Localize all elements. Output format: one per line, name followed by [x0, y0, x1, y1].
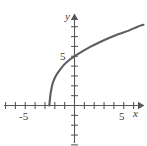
y-tick-label-5: 5 — [60, 50, 66, 62]
y-axis-group — [71, 14, 78, 145]
coordinate-plane: y x -5 5 5 — [0, 0, 147, 146]
y-axis-label: y — [64, 10, 70, 22]
x-tick-label-neg5: -5 — [19, 110, 29, 122]
x-axis-label: x — [132, 107, 138, 119]
x-axis-arrowhead — [138, 102, 145, 109]
x-tick-label-pos5: 5 — [119, 110, 125, 122]
y-axis-arrowhead — [71, 14, 78, 21]
function-curve — [49, 25, 143, 106]
graph-figure: y x -5 5 5 — [0, 0, 147, 146]
